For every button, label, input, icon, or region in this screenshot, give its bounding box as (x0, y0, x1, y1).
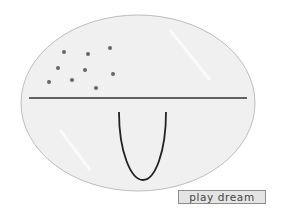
dream-scene (0, 0, 281, 214)
dot (94, 86, 98, 90)
dot (70, 78, 74, 82)
play-dream-button[interactable]: play dream (178, 190, 266, 204)
dot (111, 72, 115, 76)
dot (108, 46, 112, 50)
dot (56, 66, 60, 70)
dot (83, 68, 87, 72)
dot (86, 52, 90, 56)
dot (47, 80, 51, 84)
dot (62, 50, 66, 54)
dream-bubble (21, 15, 255, 191)
